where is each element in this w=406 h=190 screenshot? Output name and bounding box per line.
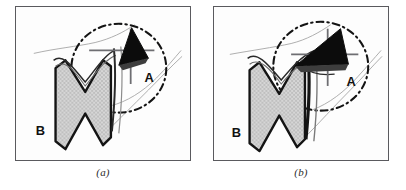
label-region-b: B — [36, 123, 45, 138]
label-region-b: B — [232, 125, 241, 140]
panel-b-graphic: A B — [214, 7, 388, 160]
panel-a-graphic: A B — [16, 7, 190, 160]
caption-panel-b: (b) — [213, 166, 389, 178]
label-region-a: A — [346, 74, 355, 89]
caption-panel-a: (a) — [15, 166, 191, 178]
label-region-a: A — [145, 70, 154, 85]
figure-root: A B (a) — [0, 0, 406, 190]
stippled-zigzag-structure — [56, 60, 111, 149]
filled-triangular-lesion — [295, 29, 348, 67]
channel-band-left — [112, 48, 115, 131]
panel-a: A B — [15, 6, 191, 161]
panel-b: A B — [213, 6, 389, 161]
contour-line-upper — [34, 25, 135, 54]
